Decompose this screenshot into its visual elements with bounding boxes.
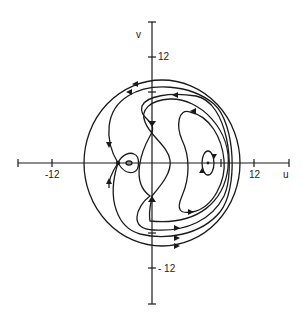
phase-portrait-svg: -12 12 u v 12 - 12 — [0, 0, 303, 318]
arrow-second-top — [126, 89, 132, 95]
third-orbit — [137, 94, 229, 230]
saddle-point — [116, 161, 120, 165]
u-axis-label: u — [283, 169, 289, 180]
v-axis-label: v — [136, 29, 141, 40]
arrow-crescent-bottom — [188, 209, 194, 215]
arrow-center-down — [199, 168, 205, 173]
arrow-second-bottom — [174, 235, 180, 241]
arrow-separatrix-upper — [148, 121, 156, 127]
u-tick-label-12: 12 — [249, 169, 261, 180]
u-tick-label-neg12: -12 — [45, 169, 60, 180]
v-tick-label-12: 12 — [158, 51, 170, 62]
center-point — [207, 162, 210, 165]
arrow-third-top — [172, 92, 178, 98]
arrow-third-bottom — [174, 225, 180, 231]
arrow-center-up — [211, 154, 217, 159]
phase-portrait-figure: -12 12 u v 12 - 12 — [0, 0, 303, 318]
v-tick-label-neg12: - 12 — [158, 263, 176, 274]
axes: -12 12 u v 12 - 12 — [18, 22, 289, 304]
arrow-saddle-lower — [106, 178, 112, 184]
direction-arrows — [106, 81, 217, 249]
separatrix-loop — [144, 99, 229, 222]
